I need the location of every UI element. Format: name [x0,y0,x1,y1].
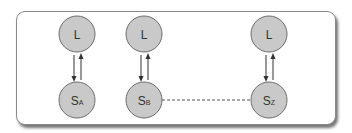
column-z: L SZ [251,16,287,118]
column-a: L SA [59,16,95,118]
node-l-z-label: L [266,28,273,42]
node-l-a-label: L [74,28,81,42]
node-l-b-label: L [141,28,148,42]
column-b: L SB [126,16,162,118]
diagram-canvas: L SA L SB L SZ [0,0,352,133]
